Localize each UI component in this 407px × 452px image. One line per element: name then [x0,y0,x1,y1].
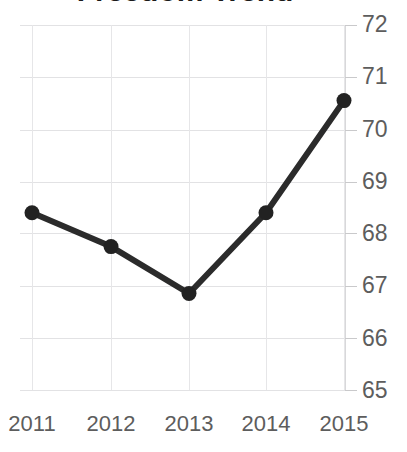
gridline-67 [20,286,345,287]
gridline-71 [20,77,345,78]
gridline-2012 [111,25,112,390]
gridline-69 [20,182,345,183]
gridline-2014 [266,25,267,390]
ytick-mark-65 [345,390,357,391]
page-title: Freedom Trend [0,0,370,8]
ytick-label-70: 70 [362,118,406,141]
ytick-mark-68 [345,233,357,234]
xtick-label-2011: 2011 [0,413,72,435]
ytick-label-67: 67 [362,274,406,297]
ytick-mark-66 [345,338,357,339]
chart-card: Freedom Trend 72 71 70 69 68 67 66 65 20… [0,0,407,452]
ytick-label-71: 71 [362,65,406,88]
ytick-mark-70 [345,130,357,131]
ytick-mark-67 [345,286,357,287]
ytick-mark-69 [345,182,357,183]
gridline-2013 [189,25,190,390]
ytick-mark-71 [345,77,357,78]
gridline-72 [20,25,345,26]
plot-area [20,25,345,390]
gridline-2011 [32,25,33,390]
gridline-68 [20,233,345,234]
gridline-65 [20,390,345,391]
gridline-70 [20,130,345,131]
ytick-label-65: 65 [362,379,406,402]
y-axis-spine [345,25,346,390]
xtick-label-2014: 2014 [226,413,306,435]
gridline-66 [20,338,345,339]
ytick-label-72: 72 [362,13,406,36]
ytick-mark-72 [345,25,357,26]
ytick-label-66: 66 [362,327,406,350]
ytick-label-69: 69 [362,170,406,193]
xtick-label-2013: 2013 [149,413,229,435]
xtick-label-2015: 2015 [304,413,384,435]
xtick-label-2012: 2012 [71,413,151,435]
ytick-label-68: 68 [362,222,406,245]
